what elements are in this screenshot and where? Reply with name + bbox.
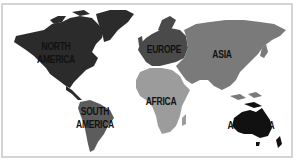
new-guinea-shape: [244, 102, 262, 108]
label-asia: ASIA: [208, 50, 235, 60]
southeast-asia-islands-shape: [230, 92, 262, 100]
label-europe: EUROPE: [144, 45, 185, 55]
label-south-america-line1: SOUTH: [74, 107, 117, 117]
label-north-america-line2: AMERICA: [36, 55, 77, 65]
label-europe-text: EUROPE: [144, 45, 185, 55]
label-africa: AFRICA: [143, 97, 179, 107]
label-africa-text: AFRICA: [143, 97, 179, 107]
label-australia-text: AUSTRALIA: [223, 121, 279, 131]
central-america-shape: [66, 86, 82, 100]
label-north-america-line1: NORTH: [36, 42, 77, 52]
label-asia-text: ASIA: [208, 50, 235, 60]
label-south-america-line2: AMERICA: [74, 120, 117, 130]
madagascar-shape: [182, 114, 186, 126]
new-zealand-shape: [276, 136, 282, 148]
world-map: [0, 0, 298, 163]
label-north-america: NORTH AMERICA: [36, 42, 77, 65]
tasmania-shape: [256, 142, 260, 146]
label-australia: AUSTRALIA: [223, 121, 279, 131]
label-south-america: SOUTH AMERICA: [74, 107, 117, 130]
